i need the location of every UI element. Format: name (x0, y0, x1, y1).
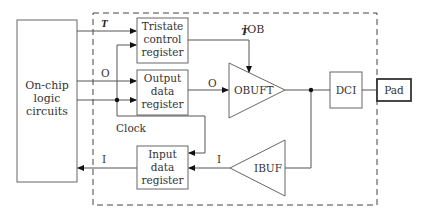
svg-text:register: register (141, 98, 184, 110)
svg-text:OBUFT: OBUFT (234, 84, 273, 96)
svg-text:data: data (151, 161, 174, 173)
junction-dot-pad (309, 88, 313, 92)
svg-text:On-chip: On-chip (25, 79, 69, 92)
pad-block: Pad (377, 79, 411, 101)
obuft-buffer: OBUFT (229, 63, 285, 118)
svg-text:Output: Output (144, 72, 182, 84)
signal-label-t-in: T (101, 17, 109, 29)
tristate-control-register: Tristate control register (137, 18, 188, 63)
signal-label-o-in: O (101, 67, 110, 79)
onchip-logic-block: On-chip logic circuits (17, 20, 77, 182)
svg-text:register: register (141, 46, 184, 58)
signal-label-o-out: O (208, 77, 217, 89)
signal-label-clock: Clock (116, 122, 147, 134)
iob-block-diagram: IOB On-chip logic circuits Tristate cont… (0, 0, 428, 215)
svg-text:logic: logic (34, 92, 61, 105)
svg-text:circuits: circuits (26, 105, 68, 118)
svg-text:DCI: DCI (336, 84, 357, 96)
ibuf-buffer: IBUF (230, 140, 285, 196)
input-data-register: Input data register (137, 146, 188, 189)
wire-t-out (188, 40, 249, 72)
svg-text:IBUF: IBUF (254, 162, 282, 174)
svg-text:Pad: Pad (384, 84, 404, 96)
junction-dot-clock (115, 98, 119, 102)
output-data-register: Output data register (137, 70, 188, 115)
dci-block: DCI (330, 72, 362, 108)
svg-text:Tristate: Tristate (142, 20, 184, 32)
signal-label-i-in: I (217, 153, 221, 165)
svg-text:Input: Input (148, 148, 177, 160)
svg-text:data: data (151, 85, 174, 97)
signal-label-i-out: I (102, 153, 106, 165)
wire-pad-ibuf (285, 90, 311, 168)
svg-text:register: register (141, 174, 184, 186)
wire-clock-tristate (117, 45, 136, 100)
svg-text:control: control (144, 33, 183, 45)
